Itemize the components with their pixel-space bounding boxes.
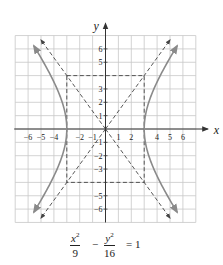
- hyperbola-branch: [144, 129, 177, 212]
- hyperbola-branch: [34, 46, 67, 129]
- x-tick-label: 1: [116, 133, 120, 142]
- x-tick-label: 4: [155, 133, 159, 142]
- denominator-9: 9: [70, 246, 80, 260]
- hyperbola-graph: xy −6−5−4−2−11245665321−1−2−3−5−6: [0, 0, 223, 228]
- fraction-y2-over-16: y2 16: [104, 229, 115, 260]
- y-tick-label: −1: [94, 138, 103, 147]
- y-tick-label: 5: [99, 58, 103, 67]
- x-axis-label: x: [213, 123, 220, 137]
- y-tick-label: 6: [99, 45, 103, 54]
- x-tick-label: −2: [75, 133, 84, 142]
- y-axis-label: y: [93, 19, 100, 33]
- y-tick-label: 1: [99, 112, 103, 121]
- equation: x2 9 − y2 16 = 1: [68, 229, 148, 263]
- y-tick-label: −5: [94, 192, 103, 201]
- denominator-16: 16: [104, 246, 115, 260]
- x-tick-label: −5: [37, 133, 46, 142]
- x-tick-label: 5: [168, 133, 172, 142]
- equals-one: = 1: [126, 237, 140, 251]
- hyperbola-branch: [144, 46, 177, 129]
- y-tick-label: −3: [94, 165, 103, 174]
- x-tick-label: −6: [24, 133, 33, 142]
- fraction-x2-over-9: x2 9: [70, 229, 80, 260]
- x-tick-label: −4: [50, 133, 59, 142]
- y-tick-label: −2: [94, 152, 103, 161]
- y-tick-label: 2: [99, 98, 103, 107]
- x-tick-label: 2: [129, 133, 133, 142]
- y-tick-label: −6: [94, 205, 103, 214]
- minus-sign: −: [92, 237, 98, 251]
- y-tick-label: 3: [99, 85, 103, 94]
- x-tick-label: 6: [181, 133, 185, 142]
